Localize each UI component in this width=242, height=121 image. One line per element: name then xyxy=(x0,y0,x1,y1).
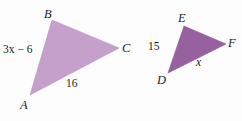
vertex-label-a: A xyxy=(20,99,28,112)
vertex-label-e: E xyxy=(178,12,186,25)
vertex-label-b: B xyxy=(44,8,52,21)
vertex-label-f: F xyxy=(228,37,236,50)
side-length-label-de: 15 xyxy=(148,41,160,53)
side-length-label-ab: 3x − 6 xyxy=(3,44,33,56)
geometry-figure xyxy=(0,0,242,121)
vertex-label-c: C xyxy=(122,42,130,55)
side-length-label-df: x xyxy=(196,57,201,69)
vertex-label-d: D xyxy=(157,74,166,87)
side-length-label-ac: 16 xyxy=(66,78,78,90)
